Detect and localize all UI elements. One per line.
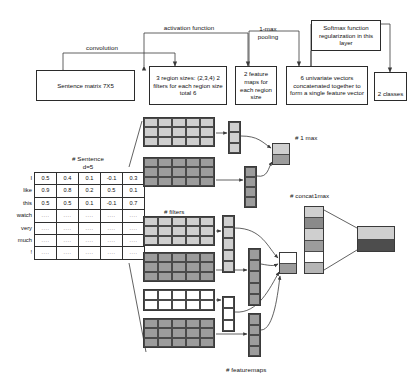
feature-map-cell <box>186 272 200 281</box>
vector-cell <box>245 177 256 187</box>
feature-map-cell <box>158 167 172 176</box>
matrix-cell: .... <box>35 247 57 259</box>
max-cell-part <box>273 144 289 155</box>
vector-cell <box>223 261 234 272</box>
matrix-cell: .... <box>35 210 57 222</box>
feature-map-cell <box>144 137 158 146</box>
feature-map-cell <box>144 167 158 176</box>
matrix-row-label: much <box>12 235 35 247</box>
matrix-cell: 0.5 <box>101 185 123 197</box>
vector-cell <box>245 187 256 197</box>
feature-map-cell <box>186 226 200 235</box>
feature-map-cell <box>172 236 186 245</box>
feature-map-cell <box>200 253 214 262</box>
feature-map-cell <box>144 236 158 245</box>
feature-map-cell <box>186 217 200 226</box>
vector-col-5 <box>222 296 235 332</box>
featuremap-grid-4 <box>143 252 215 282</box>
output-class-cell <box>358 227 394 240</box>
matrix-cell: 0.8 <box>57 185 79 197</box>
feature-map-cell <box>144 262 158 271</box>
output-class-cell <box>358 240 394 252</box>
matrix-cell: .... <box>123 235 145 247</box>
feature-map-cell <box>200 226 214 235</box>
vector-cell <box>229 143 240 153</box>
feature-maps-box: 2 feature maps for each region size <box>235 66 277 105</box>
feature-map-cell <box>144 272 158 281</box>
matrix-cell: -0.1 <box>101 173 123 185</box>
matrix-cell: 0.1 <box>79 197 101 209</box>
feature-map-cell <box>144 127 158 136</box>
matrix-cell: .... <box>79 247 101 259</box>
matrix-cell: .... <box>35 222 57 234</box>
feature-map-cell <box>158 158 172 167</box>
matrix-row: watch.................... <box>12 210 145 222</box>
featuremap-grid-2 <box>143 157 215 187</box>
feature-map-cell <box>158 127 172 136</box>
feature-map-cell <box>158 319 172 328</box>
feature-map-cell <box>158 226 172 235</box>
feature-map-cell <box>158 177 172 186</box>
feature-map-cell <box>158 118 172 127</box>
feature-map-cell <box>172 328 186 337</box>
matrix-cell: .... <box>79 210 101 222</box>
feature-map-cell <box>200 290 214 300</box>
feature-map-cell <box>172 158 186 167</box>
feature-map-cell <box>186 167 200 176</box>
output-classes-block <box>357 226 395 252</box>
feature-map-cell <box>158 290 172 300</box>
matrix-cell: .... <box>101 210 123 222</box>
vector-cell <box>249 294 260 305</box>
vector-col-3 <box>222 215 235 273</box>
featuremap-grid-1 <box>143 117 215 147</box>
feature-map-cell <box>172 262 186 271</box>
matrix-grid: I0.50.40.1-0.10.3like0.90.80.20.50.1this… <box>12 172 145 260</box>
feature-map-cell <box>158 262 172 271</box>
matrix-row-label: ! <box>12 247 35 259</box>
vector-col-1 <box>228 121 241 154</box>
matrix-cell: .... <box>123 222 145 234</box>
convolution-label: convolution <box>74 44 130 52</box>
matrix-cell: .... <box>101 235 123 247</box>
matrix-row: this0.50.50.1-0.10.7 <box>12 197 145 209</box>
vector-cell <box>249 314 260 325</box>
feature-map-cell <box>144 217 158 226</box>
feature-map-cell <box>200 167 214 176</box>
feature-map-cell <box>172 253 186 262</box>
1-max-pooling-label: 1-max pooling <box>248 25 288 40</box>
matrix-body: I0.50.40.1-0.10.3like0.90.80.20.50.1this… <box>12 173 145 260</box>
vector-cell <box>249 249 260 260</box>
feature-map-cell <box>200 127 214 136</box>
feature-map-cell <box>186 262 200 271</box>
feature-map-cell <box>158 137 172 146</box>
feature-map-cell <box>158 253 172 262</box>
feature-map-cell <box>172 167 186 176</box>
matrix-cell: .... <box>101 222 123 234</box>
feature-map-cell <box>200 272 214 281</box>
vector-col-4 <box>248 248 261 306</box>
vector-cell <box>223 227 234 238</box>
feature-map-cell <box>144 118 158 127</box>
classes-box: 2 classes <box>374 72 407 101</box>
feature-map-cell <box>144 290 158 300</box>
matrix-cell: 0.1 <box>79 173 101 185</box>
feature-map-cell <box>172 319 186 328</box>
concat-vector-cell <box>305 229 323 240</box>
feature-map-cell <box>158 338 172 347</box>
vector-cell <box>229 132 240 142</box>
matrix-row: !.................... <box>12 247 145 259</box>
max-cell-part <box>280 253 296 264</box>
matrix-cell: 0.5 <box>35 173 57 185</box>
vector-cell <box>223 250 234 261</box>
region-sizes-box-text: 3 region sizes: (2,3,4) 2 filters for ea… <box>152 74 224 97</box>
matrix-row: like0.90.80.20.50.1 <box>12 185 145 197</box>
matrix-cell: .... <box>79 235 101 247</box>
activation-function-label: activation function <box>152 24 226 32</box>
feature-map-cell <box>172 290 186 300</box>
max-cell-bottom <box>279 252 297 274</box>
matrix-row-label: this <box>12 197 35 209</box>
sentence-matrix-caption: # Sentence d=5 <box>38 155 138 170</box>
vector-cell <box>249 325 260 336</box>
feature-map-cell <box>158 328 172 337</box>
feature-map-cell <box>186 253 200 262</box>
